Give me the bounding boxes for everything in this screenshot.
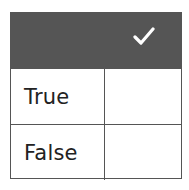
checkmark-icon [133, 26, 155, 46]
table-header [11, 13, 181, 69]
table-row-true: True [11, 69, 181, 125]
option-label-false: False [11, 125, 105, 180]
answer-cell-false[interactable] [105, 125, 181, 180]
table-row-false: False [11, 125, 181, 180]
true-false-table: True False [10, 12, 182, 179]
answer-cell-true[interactable] [105, 69, 181, 124]
option-label-true: True [11, 69, 105, 124]
